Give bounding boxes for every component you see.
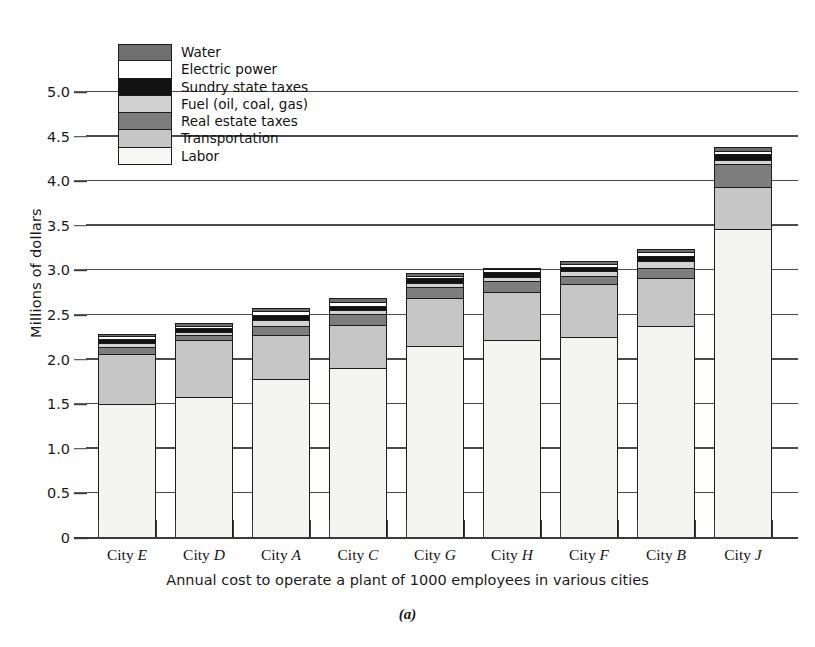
bar-segment-realestate (253, 327, 309, 337)
bar-segment-labor (638, 327, 694, 538)
y-tick-label: 1.5 (32, 396, 70, 412)
bar-segment-transport (176, 341, 232, 398)
bar-segment-realestate (484, 282, 540, 293)
bar-segment-labor (561, 338, 617, 538)
x-category-prefix: City (261, 546, 292, 563)
legend-label: Electric power (181, 61, 277, 78)
x-category-prefix: City (724, 546, 755, 563)
legend-swatch-electric (118, 61, 172, 78)
stacked-bar (560, 261, 618, 538)
legend-item: Electric power (118, 61, 368, 78)
x-tick-mark (406, 520, 407, 538)
x-category-letter: F (600, 546, 609, 563)
y-tick-label: 2.0 (32, 352, 70, 368)
legend-item: Labor (118, 148, 368, 165)
y-tick-label: 3.0 (32, 262, 70, 278)
x-category-label: City F (548, 546, 630, 564)
x-tick-mark (637, 520, 638, 538)
legend-label: Water (181, 44, 221, 61)
x-tick-mark (310, 520, 311, 538)
x-tick-mark (175, 520, 176, 538)
legend-item: Fuel (oil, coal, gas) (118, 96, 368, 113)
bar-segment-transport (638, 279, 694, 327)
y-tick-label: 0.5 (32, 485, 70, 501)
y-tick-label: 5.0 (32, 84, 70, 100)
legend-item: Water (118, 44, 368, 61)
bar-segment-labor (99, 405, 155, 538)
legend-label: Labor (181, 148, 219, 165)
x-tick-mark (695, 520, 696, 538)
stacked-bar (406, 273, 464, 538)
x-tick-mark (233, 520, 234, 538)
y-tick-label: 0 (32, 530, 70, 546)
x-tick-mark (156, 520, 157, 538)
x-category-label: City C (317, 546, 399, 564)
stacked-bar (175, 323, 233, 538)
x-category-letter: B (677, 546, 686, 563)
bar-segment-labor (407, 347, 463, 538)
x-category-label: City B (625, 546, 707, 564)
x-tick-mark (772, 520, 773, 538)
x-category-label: City G (394, 546, 476, 564)
y-tick-label: 1.0 (32, 441, 70, 457)
legend-item: Transportation (118, 130, 368, 147)
bar-segment-labor (715, 230, 771, 538)
x-category-prefix: City (414, 546, 445, 563)
x-tick-mark (618, 520, 619, 538)
legend-swatch-sundry (118, 79, 172, 96)
legend-label: Sundry state taxes (181, 79, 308, 96)
legend-swatch-water (118, 44, 172, 61)
legend-item: Real estate taxes (118, 113, 368, 130)
legend-label: Real estate taxes (181, 113, 298, 130)
bar-segment-realestate (715, 165, 771, 188)
x-category-letter: J (755, 546, 762, 563)
bar-segment-realestate (330, 315, 386, 326)
legend-item: Sundry state taxes (118, 79, 368, 96)
y-tick-label: 2.5 (32, 307, 70, 323)
x-axis-caption: Annual cost to operate a plant of 1000 e… (0, 572, 815, 588)
x-tick-mark (714, 520, 715, 538)
legend-swatch-transport (118, 130, 172, 147)
legend-label: Transportation (181, 130, 278, 147)
bar-segment-realestate (407, 288, 463, 299)
stacked-bar (252, 308, 310, 538)
x-tick-mark (464, 520, 465, 538)
bar-segment-transport (99, 355, 155, 405)
bar-segment-labor (253, 380, 309, 538)
stacked-bar (329, 298, 387, 538)
x-category-letter: H (522, 546, 533, 563)
bar-segment-realestate (638, 269, 694, 280)
x-category-label: City A (240, 546, 322, 564)
legend-label: Fuel (oil, coal, gas) (181, 96, 308, 113)
stacked-bar (714, 147, 772, 538)
x-category-label: City E (86, 546, 168, 564)
y-tick-label: 3.5 (32, 218, 70, 234)
stacked-bar (637, 249, 695, 538)
y-axis-ticks: 5.04.54.03.53.02.52.01.51.00.50 (16, 0, 70, 647)
gridline (86, 180, 798, 182)
x-axis-line (74, 537, 798, 539)
stacked-bar (98, 334, 156, 538)
bar-segment-realestate (99, 348, 155, 355)
x-category-prefix: City (646, 546, 677, 563)
y-tick-label: 4.0 (32, 173, 70, 189)
x-category-prefix: City (569, 546, 600, 563)
x-category-label: City H (471, 546, 553, 564)
x-tick-mark (387, 520, 388, 538)
x-category-letter: E (138, 546, 147, 563)
bar-segment-realestate (561, 277, 617, 285)
x-category-letter: D (214, 546, 225, 563)
x-category-prefix: City (338, 546, 369, 563)
bar-segment-transport (330, 326, 386, 369)
x-tick-mark (252, 520, 253, 538)
bar-segment-transport (484, 293, 540, 341)
bar-segment-labor (176, 398, 232, 538)
x-category-prefix: City (491, 546, 522, 563)
x-category-prefix: City (107, 546, 138, 563)
x-category-letter: G (445, 546, 456, 563)
bar-segment-transport (715, 188, 771, 230)
bar-segment-transport (407, 299, 463, 347)
x-category-prefix: City (183, 546, 214, 563)
x-category-letter: A (292, 546, 301, 563)
legend-swatch-realestate (118, 113, 172, 130)
